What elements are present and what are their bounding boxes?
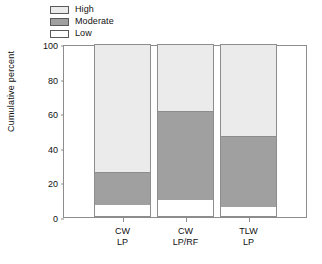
bar-1	[157, 44, 214, 217]
y-axis-tick-mark	[61, 115, 64, 116]
bar-segment-moderate	[220, 136, 277, 207]
legend-swatch-icon	[50, 6, 69, 14]
x-tick-line-2: LP	[239, 237, 257, 248]
y-axis-tick-label: 60	[48, 111, 58, 120]
y-axis-tick-label: 80	[48, 76, 58, 85]
bar-segment-low	[94, 205, 151, 217]
x-axis-tick-mark	[249, 217, 250, 222]
legend-swatch-icon	[50, 18, 69, 26]
bar-segment-moderate	[94, 172, 151, 205]
legend-label: Low	[75, 29, 92, 38]
legend-label: Moderate	[75, 17, 114, 26]
x-tick-line-2: LP	[115, 237, 130, 248]
bar-2	[220, 44, 277, 217]
y-axis-tick-label: 20	[48, 180, 58, 189]
x-axis-tick-label: CWLP/RF	[173, 226, 199, 248]
x-axis-tick-mark	[186, 217, 187, 222]
x-tick-line-2: LP/RF	[173, 237, 199, 248]
bar-segment-low	[220, 207, 277, 217]
x-tick-line-1: TLW	[239, 226, 257, 237]
y-axis-tick-mark	[61, 149, 64, 150]
y-axis-tick-label: 40	[48, 145, 58, 154]
legend-item-high: High	[50, 4, 114, 15]
legend-item-low: Low	[50, 28, 114, 39]
x-axis-tick-mark	[123, 217, 124, 222]
bar-segment-high	[94, 44, 151, 172]
stacked-bar-chart: HighModerateLow Cumulative percent 02040…	[0, 0, 322, 264]
bar-segment-high	[157, 44, 214, 111]
bar-segment-moderate	[157, 111, 214, 199]
x-axis-tick-label: CWLP	[115, 226, 130, 248]
bar-0	[94, 44, 151, 217]
bar-segment-high	[220, 44, 277, 136]
legend-item-moderate: Moderate	[50, 16, 114, 27]
chart-legend: HighModerateLow	[50, 4, 114, 40]
y-axis-tick-mark	[61, 80, 64, 81]
y-axis-tick-label: 100	[43, 42, 58, 51]
legend-label: High	[75, 5, 94, 14]
bar-segment-low	[157, 200, 214, 217]
plot-area: 020406080100CWLPCWLP/RFTLWLP	[63, 45, 307, 218]
x-axis-tick-label: TLWLP	[239, 226, 257, 248]
x-tick-line-1: CW	[173, 226, 199, 237]
y-axis-tick-mark	[61, 46, 64, 47]
y-axis-tick-label: 0	[53, 215, 58, 224]
y-axis-title: Cumulative percent	[6, 51, 16, 132]
y-axis-tick-mark	[61, 184, 64, 185]
y-axis-tick-mark	[61, 219, 64, 220]
legend-swatch-icon	[50, 30, 69, 38]
x-tick-line-1: CW	[115, 226, 130, 237]
